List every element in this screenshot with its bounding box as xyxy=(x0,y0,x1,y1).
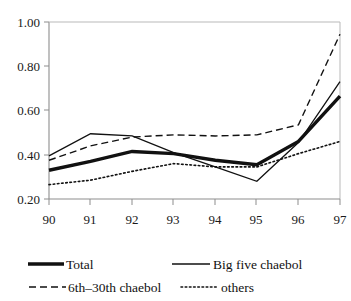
x-tick-label: 97 xyxy=(334,212,348,227)
line-chart: 1.00 0.80 0.60 0.40 0.20 90 91 92 93 94 … xyxy=(0,0,351,301)
y-tick-label: 0.20 xyxy=(17,192,40,207)
y-tick-label: 0.60 xyxy=(17,103,40,118)
x-axis-labels: 90 91 92 93 94 95 96 97 xyxy=(43,212,348,227)
y-axis-ticks xyxy=(44,22,49,199)
chart-legend: Total Big five chaebol 6th–30th chaebol … xyxy=(28,257,302,295)
x-tick-label: 96 xyxy=(292,212,306,227)
y-tick-label: 1.00 xyxy=(17,15,40,30)
legend-label-6th-30th-chaebol: 6th–30th chaebol xyxy=(68,280,162,295)
x-tick-label: 91 xyxy=(84,212,97,227)
legend-label-others: others xyxy=(221,280,254,295)
y-tick-label: 0.40 xyxy=(17,148,40,163)
legend-label-total: Total xyxy=(66,257,94,272)
x-tick-label: 92 xyxy=(126,212,139,227)
series-line-others xyxy=(49,141,340,184)
chart-canvas: 1.00 0.80 0.60 0.40 0.20 90 91 92 93 94 … xyxy=(0,0,351,301)
x-tick-label: 94 xyxy=(209,212,223,227)
series-line-big-five-chaebol xyxy=(49,82,340,182)
x-tick-label: 95 xyxy=(250,212,263,227)
y-tick-label: 0.80 xyxy=(17,59,40,74)
x-tick-label: 90 xyxy=(43,212,56,227)
data-series-group xyxy=(49,34,340,184)
y-axis-labels: 1.00 0.80 0.60 0.40 0.20 xyxy=(17,15,40,207)
plot-frame xyxy=(49,22,340,199)
x-axis-ticks xyxy=(49,199,340,205)
legend-label-big-five-chaebol: Big five chaebol xyxy=(213,257,302,272)
x-tick-label: 93 xyxy=(167,212,180,227)
